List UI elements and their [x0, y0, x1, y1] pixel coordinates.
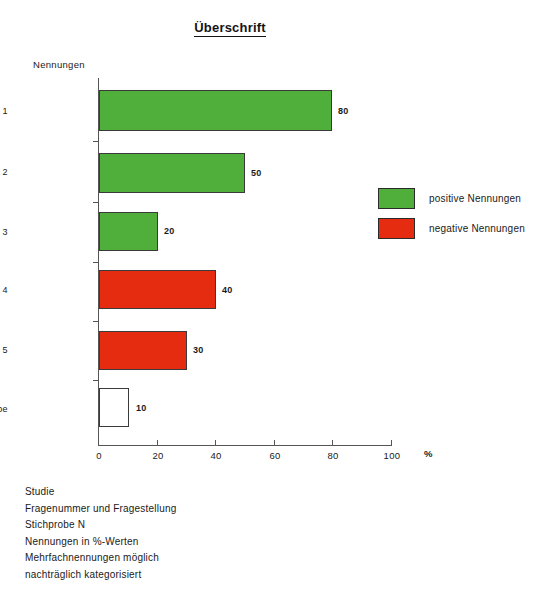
x-axis-tick-label: 80 — [327, 450, 338, 461]
bar-keine-angabe — [99, 388, 129, 427]
y-axis-tick — [93, 321, 98, 322]
category-label-nennung-4: Nennung 4 — [0, 285, 8, 295]
y-axis-tick — [93, 262, 98, 263]
y-axis-tick — [93, 141, 98, 142]
category-label-nennung-5: Nennung 5 — [0, 345, 8, 355]
legend-swatch-positive-icon — [378, 188, 415, 209]
x-axis-tick-label: 20 — [152, 450, 163, 461]
legend-label-negative: negative Nennungen — [429, 223, 525, 234]
category-label-nennung-3: Nennung 3 — [0, 227, 8, 237]
legend-swatch-negative-icon — [378, 218, 415, 239]
chart-footnotes: Studie Fragenummer und Fragestellung Sti… — [25, 484, 176, 583]
y-axis-title: Nennungen — [33, 59, 85, 70]
bar-nennung-1 — [99, 90, 332, 131]
x-axis-tick — [332, 440, 333, 446]
x-axis-tick-label: 40 — [210, 450, 221, 461]
category-label-keine-angabe: keine Angabe — [0, 404, 8, 414]
x-axis-tick — [98, 440, 99, 446]
x-axis-line — [98, 445, 391, 446]
x-axis-tick — [274, 440, 275, 446]
x-axis-tick — [215, 440, 216, 446]
legend-item-negative: negative Nennungen — [378, 217, 553, 239]
bar-value-nennung-2: 50 — [251, 168, 262, 178]
bar-nennung-4 — [99, 270, 216, 309]
x-axis-tick — [157, 440, 158, 446]
bar-nennung-3 — [99, 212, 158, 251]
footnote-line-6: nachträglich kategorisiert — [25, 567, 176, 584]
bar-value-keine-angabe: 10 — [136, 403, 147, 413]
bar-value-nennung-5: 30 — [193, 345, 204, 355]
bar-nennung-2 — [99, 153, 245, 193]
x-axis-unit-label: % — [424, 448, 432, 459]
bar-value-nennung-4: 40 — [222, 285, 233, 295]
footnote-line-2: Fragenummer und Fragestellung — [25, 501, 176, 518]
chart-legend: positive Nennungen negative Nennungen — [378, 187, 553, 247]
category-label-nennung-2: Nennung 2 — [0, 167, 8, 177]
x-axis-tick-label: 100 — [384, 450, 401, 461]
footnote-line-3: Stichprobe N — [25, 517, 176, 534]
bar-nennung-5 — [99, 331, 187, 370]
footnote-line-4: Nennungen in %-Werten — [25, 534, 176, 551]
x-axis-tick-label: 60 — [269, 450, 280, 461]
bar-value-nennung-1: 80 — [338, 106, 349, 116]
category-label-nennung-1: Nennung 1 — [0, 106, 8, 116]
bar-value-nennung-3: 20 — [164, 226, 175, 236]
x-axis-tick-label: 0 — [96, 450, 102, 461]
footnote-line-1: Studie — [25, 484, 176, 501]
legend-label-positive: positive Nennungen — [429, 193, 521, 204]
y-axis-tick — [93, 202, 98, 203]
x-axis-tick — [391, 440, 392, 446]
y-axis-tick — [93, 380, 98, 381]
legend-item-positive: positive Nennungen — [378, 187, 553, 209]
footnote-line-5: Mehrfachnennungen möglich — [25, 550, 176, 567]
